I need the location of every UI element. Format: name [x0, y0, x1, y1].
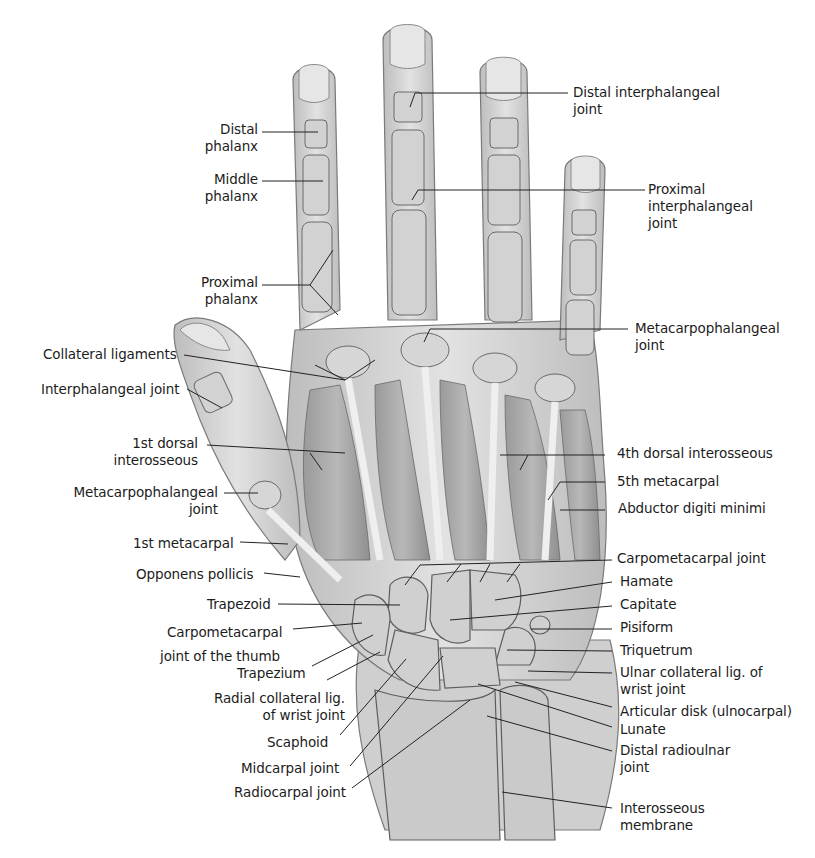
label-carpometacarpal-joint: Carpometacarpal joint — [617, 550, 766, 567]
label-interphalangeal-joint: Interphalangeal joint — [41, 381, 179, 398]
label-middle-phalanx: Middlephalanx — [205, 171, 258, 205]
label-distal-phalanx: Distalphalanx — [205, 121, 258, 155]
label-ulnar-collateral-lig: Ulnar collateral lig. ofwrist joint — [620, 664, 763, 698]
label-5th-metacarpal: 5th metacarpal — [617, 473, 719, 490]
label-1st-metacarpal: 1st metacarpal — [133, 535, 234, 552]
label-proximal-interphalangeal-joint: Proximalinterphalangealjoint — [648, 181, 753, 232]
label-hamate: Hamate — [620, 573, 673, 590]
label-midcarpal-joint: Midcarpal joint — [241, 760, 339, 777]
label-4th-dorsal-interosseous: 4th dorsal interosseous — [617, 445, 773, 462]
label-scaphoid: Scaphoid — [267, 734, 328, 751]
label-distal-radioulnar-joint: Distal radioulnarjoint — [620, 742, 730, 776]
label-radiocarpal-joint: Radiocarpal joint — [234, 784, 346, 801]
label-carpometacarpal-joint-thumb: Carpometacarpaljoint of the thumb — [160, 620, 282, 668]
label-lunate: Lunate — [620, 721, 666, 738]
label-pisiform: Pisiform — [620, 619, 673, 636]
label-radial-collateral-lig: Radial collateral lig.of wrist joint — [214, 690, 345, 724]
label-capitate: Capitate — [620, 596, 676, 613]
label-interosseous-membrane: Interosseousmembrane — [620, 800, 705, 834]
label-trapezoid: Trapezoid — [207, 596, 271, 613]
label-1st-dorsal-interosseous: 1st dorsalinterosseous — [114, 435, 198, 469]
label-abductor-digiti-minimi: Abductor digiti minimi — [618, 500, 766, 517]
label-articular-disk: Articular disk (ulnocarpal) — [620, 703, 792, 720]
label-proximal-phalanx: Proximalphalanx — [201, 274, 258, 308]
label-distal-interphalangeal-joint: Distal interphalangealjoint — [573, 84, 720, 118]
hand-anatomy-illustration — [0, 0, 815, 858]
label-metacarpophalangeal-joint-thumb: Metacarpophalangealjoint — [73, 484, 218, 518]
label-triquetrum: Triquetrum — [620, 642, 693, 659]
label-collateral-ligaments: Collateral ligaments — [43, 346, 177, 363]
label-trapezium: Trapezium — [237, 665, 306, 682]
label-metacarpophalangeal-joint: Metacarpophalangealjoint — [635, 320, 780, 354]
forearm-bones — [375, 685, 555, 840]
label-opponens-pollicis: Opponens pollicis — [136, 566, 253, 583]
